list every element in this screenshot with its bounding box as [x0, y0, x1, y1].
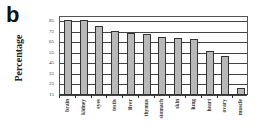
bar-brain: [64, 20, 72, 94]
gridline: [60, 53, 247, 54]
x-tick-label: muscle: [237, 99, 243, 115]
y-axis-label: Percentage: [13, 34, 24, 81]
x-tick-label: brain: [64, 99, 70, 112]
x-tick-label: lung: [190, 99, 196, 109]
x-tick: [138, 95, 139, 98]
gridline: [60, 74, 247, 75]
x-tick-label: skin: [174, 99, 180, 109]
gridline: [60, 32, 247, 33]
y-tick-label: 55: [36, 50, 54, 56]
bar-testis: [111, 31, 119, 94]
gridline: [60, 84, 247, 85]
x-tick: [59, 95, 60, 98]
x-tick: [154, 95, 155, 98]
y-tick-label: 25: [36, 81, 54, 87]
x-tick: [75, 95, 76, 98]
bar-muscle: [237, 88, 245, 94]
bar-eyes: [95, 26, 103, 94]
bar-thymus: [143, 34, 151, 94]
x-tick: [91, 95, 92, 98]
bar-ovary: [221, 56, 229, 94]
y-tick-label: 85: [36, 18, 54, 24]
x-tick: [217, 95, 218, 98]
plot-area: [59, 16, 248, 95]
x-tick-label: heart: [206, 99, 212, 112]
y-tick-label: 65: [36, 39, 54, 45]
x-tick: [122, 95, 123, 98]
y-tick-label: 15: [36, 92, 54, 98]
x-tick: [201, 95, 202, 98]
x-tick-label: ovary: [221, 99, 227, 112]
x-tick: [169, 95, 170, 98]
x-tick-label: kidney: [80, 99, 86, 115]
bar-heart: [206, 51, 214, 94]
x-tick: [185, 95, 186, 98]
bar-stomach: [158, 37, 166, 94]
gridline: [60, 21, 247, 22]
x-tick-label: liver: [127, 99, 133, 110]
x-tick-label: thymus: [143, 99, 149, 116]
bar-skin: [174, 38, 182, 94]
y-tick-label: 35: [36, 71, 54, 77]
y-tick-label: 45: [36, 60, 54, 66]
bar-liver: [127, 33, 135, 94]
x-tick-label: eyes: [95, 99, 101, 109]
x-tick-label: testis: [111, 99, 117, 111]
panel-label: b: [6, 2, 19, 28]
y-tick-label: 75: [36, 29, 54, 35]
bar-kidney: [80, 20, 88, 94]
x-tick: [232, 95, 233, 98]
x-tick-label: stomach: [158, 99, 164, 119]
gridline: [60, 42, 247, 43]
gridline: [60, 63, 247, 64]
bar-lung: [190, 39, 198, 94]
x-tick: [106, 95, 107, 98]
